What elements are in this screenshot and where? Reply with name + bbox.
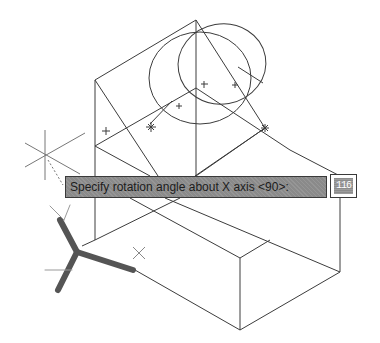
dynamic-input-prompt: Specify rotation angle about X axis <90>… (65, 176, 327, 198)
drawing-canvas[interactable] (0, 0, 380, 343)
snap-markers (102, 81, 269, 259)
wireframe-solid (82, 17, 340, 330)
drawing-viewport[interactable]: Specify rotation angle about X axis <90>… (0, 0, 380, 343)
ucs-icon (45, 205, 133, 290)
angle-input-value[interactable]: 116 (334, 178, 353, 194)
angle-input-field[interactable]: 116 (330, 174, 357, 198)
